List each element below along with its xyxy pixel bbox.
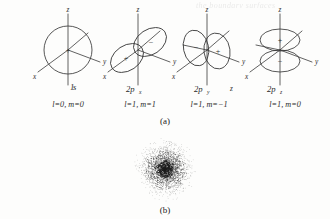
2pz-lobe-sign-positive: + <box>278 36 283 45</box>
x-axis-label-2py: x <box>171 73 176 81</box>
y-axis-line-1s <box>68 50 100 62</box>
2py-orbital-label-sub: y <box>206 89 210 95</box>
z-axis-label-2pz: z <box>278 6 282 14</box>
quantum-numbers-2px: l=1, m=1 <box>124 100 156 109</box>
figure-container: the boundary surfaces + z y x 1 s + − <box>0 0 330 219</box>
2pz-orbital: + − z y x 2p z <box>244 6 319 95</box>
2py-orbital-label: 2p <box>194 84 203 94</box>
2pz-orbital-label-sub: z <box>279 89 283 95</box>
2px-lobe-sign-positive: + <box>124 54 129 63</box>
aux-axis-line-1s <box>68 33 88 50</box>
y-axis-line-2py <box>207 50 239 62</box>
2py-lobe-sign-negative: − <box>194 43 199 52</box>
quantum-numbers-2py: l=1, m=−1 <box>190 100 227 109</box>
electron-probability-cloud <box>126 136 204 202</box>
y-axis-label-1s: y <box>102 58 107 66</box>
1s-orbital: + z y x 1 s <box>32 6 107 92</box>
x-axis-line-2py <box>177 50 207 72</box>
2px-orbital: + − z y x 2p x <box>102 6 177 95</box>
2pz-lobe-sign-negative: − <box>278 57 283 66</box>
y-axis-line-2pz <box>280 50 312 62</box>
z-axis-label-1s: z <box>66 6 70 14</box>
2pz-orbital-label: 2p <box>267 84 276 94</box>
2px-orbital-label: 2p <box>126 84 135 94</box>
x-axis-label-2pz: x <box>244 73 249 81</box>
x-axis-label-1s: x <box>32 73 37 81</box>
quantum-numbers-1s: l=0, m=0 <box>52 100 84 109</box>
caption-a: (a) <box>160 116 170 126</box>
y-axis-label-2px: y <box>172 58 177 66</box>
z-axis-label-2px: z <box>136 6 140 14</box>
electron-cloud-canvas <box>126 136 204 202</box>
2px-orbital-label-sub: x <box>138 89 142 95</box>
caption-b: (b) <box>160 205 171 215</box>
2px-lobe-sign-negative: − <box>149 38 154 47</box>
z-axis-label-2py: z <box>205 6 209 14</box>
1s-lobe-sign-center: + <box>66 46 71 55</box>
2py-lobe-sign-positive: + <box>216 47 221 56</box>
quantum-numbers-2pz: l=1, m=0 <box>269 100 301 109</box>
x-axis-label-2px: x <box>102 73 107 81</box>
aux-axis-line-2pz <box>280 31 302 50</box>
y-axis-label-2py: y <box>241 58 246 66</box>
y-axis-label-2pz: y <box>314 58 319 66</box>
stray-z-axis-label: z <box>229 85 233 93</box>
2py-orbital: − + z y x 2p y z <box>171 6 246 95</box>
1s-orbital-label-sub: s <box>73 82 77 92</box>
